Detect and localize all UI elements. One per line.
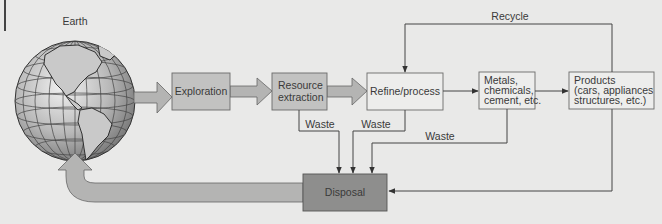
node-products[interactable]: Products (cars, appliances structures, e…: [569, 72, 654, 109]
node-extraction-line-2: extraction: [278, 91, 324, 103]
waste-metals-label: Waste: [425, 130, 455, 142]
node-extraction-line-1: Resource: [278, 79, 323, 91]
node-metals-chemicals[interactable]: Metals, chemicals, cement, etc.: [479, 72, 541, 109]
recycle-label: Recycle: [491, 10, 529, 22]
node-resource-extraction[interactable]: Resource extraction: [272, 73, 327, 110]
arrow-earth-to-exploration: [134, 82, 172, 113]
earth-globe-icon: [15, 41, 135, 161]
arrow-products-to-disposal: [389, 109, 612, 191]
node-metals-line-3: cement, etc.: [484, 94, 541, 106]
earth-label: Earth: [62, 15, 87, 27]
arrow-extraction-to-refine: [327, 78, 367, 105]
resource-cycle-diagram: Earth: [0, 0, 662, 224]
waste-extraction-label: Waste: [305, 118, 335, 130]
node-refine-label: Refine/process: [370, 85, 440, 97]
arrow-exploration-to-extraction: [230, 78, 272, 105]
node-exploration-label: Exploration: [175, 85, 228, 97]
waste-refine-label: Waste: [361, 118, 391, 130]
arrow-recycle: [405, 24, 612, 72]
node-disposal-label: Disposal: [325, 186, 365, 198]
node-products-line-3: structures, etc.): [574, 94, 646, 106]
node-disposal[interactable]: Disposal: [303, 174, 387, 211]
arrow-disposal-to-earth: [58, 153, 303, 202]
node-exploration[interactable]: Exploration: [172, 73, 230, 110]
node-refine-process[interactable]: Refine/process: [367, 73, 443, 110]
